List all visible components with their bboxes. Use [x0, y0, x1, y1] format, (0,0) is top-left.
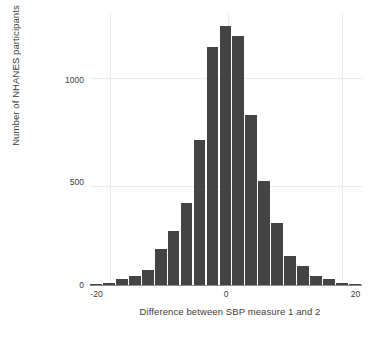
histogram-bar	[116, 279, 128, 285]
x-axis-title: Difference between SBP measure 1 and 2	[95, 306, 365, 317]
gridline-x	[110, 14, 111, 285]
x-tick-label: 0	[224, 289, 229, 299]
histogram-bar	[207, 47, 219, 285]
histogram-figure: Number of NHANES participants 05001000 -…	[0, 0, 369, 337]
y-tick-label: 1000	[65, 75, 84, 85]
histogram-bar	[155, 249, 167, 285]
x-tick-label: -20	[90, 289, 102, 299]
histogram-bar	[232, 36, 244, 285]
gridline-x	[342, 14, 343, 285]
plot-panel	[90, 14, 362, 285]
histogram-bar	[220, 26, 232, 285]
x-tick-label: 20	[351, 289, 360, 299]
histogram-bar	[349, 284, 361, 285]
histogram-bar	[90, 284, 102, 285]
histogram-bar	[310, 276, 322, 285]
histogram-bar	[297, 266, 309, 286]
y-axis-title: Number of NHANES participants	[10, 0, 21, 176]
histogram-bar	[103, 283, 115, 285]
histogram-bar	[245, 115, 257, 285]
histogram-bar	[284, 256, 296, 285]
histogram-bar	[142, 270, 154, 285]
y-tick-label: 0	[79, 280, 84, 290]
y-tick-label: 500	[70, 177, 84, 187]
histogram-bar	[168, 231, 180, 285]
histogram-bar	[194, 140, 206, 285]
x-axis-baseline	[90, 285, 362, 286]
histogram-bar	[336, 283, 348, 285]
histogram-bar	[271, 223, 283, 285]
histogram-bar	[258, 181, 270, 285]
histogram-bar	[323, 279, 335, 285]
histogram-bar	[129, 276, 141, 285]
histogram-bar	[181, 203, 193, 285]
